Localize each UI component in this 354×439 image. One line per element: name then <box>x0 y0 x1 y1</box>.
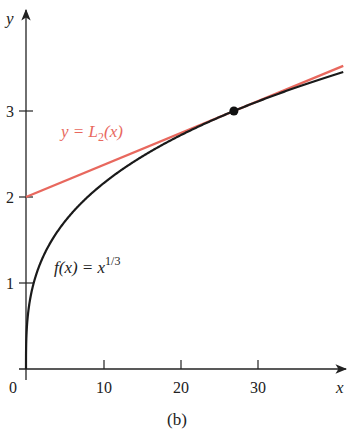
y-axis-label: y <box>4 9 14 28</box>
x-tick-label-30: 30 <box>250 379 266 396</box>
x-axis-label: x <box>335 378 344 397</box>
tangent-point-marker <box>229 107 238 116</box>
function-label: f(x) = x1/3 <box>54 254 120 277</box>
tangent-line-label: y = L2(x) <box>59 122 123 144</box>
y-tick-label-1: 1 <box>6 275 14 292</box>
x-tick-label-10: 10 <box>96 379 112 396</box>
figure-caption: (b) <box>167 410 187 429</box>
function-curve <box>26 72 343 369</box>
chart: y x 0 1 2 3 10 20 30 y = L2(x) f(x) = x1… <box>0 0 354 439</box>
y-tick-label-2: 2 <box>6 189 14 206</box>
origin-label: 0 <box>9 379 17 396</box>
y-tick-label-3: 3 <box>6 103 14 120</box>
x-ticks <box>104 360 258 369</box>
x-tick-label-20: 20 <box>173 379 189 396</box>
